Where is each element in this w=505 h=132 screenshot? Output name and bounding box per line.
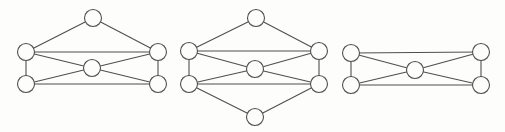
graph-2-edge-bottom-lower-left [189,84,255,117]
graph-1-vertex-lower-left [18,76,35,93]
graph-3-vertex-upper-left [343,45,360,62]
graph-3-vertex-lower-right [473,77,490,94]
graph-2-vertex-top [248,10,265,27]
graph-3-vertex-upper-right [473,44,490,61]
graph-2-edge-bottom-lower-right [255,84,319,117]
graph-3-edge-center-upper-right [415,52,481,70]
graph-3-edge-upper-left-upper-right [351,52,481,53]
graph-1-edge-center-upper-left [26,52,92,68]
graph-2 [181,10,328,126]
graph-3-edge-center-lower-right [415,70,481,85]
graph-3-edge-center-upper-left [351,53,415,70]
graph-2-edge-top-upper-right [256,18,319,51]
graph-2-edge-center-lower-right [255,69,319,84]
graph-2-vertex-upper-left [181,43,198,60]
graph-2-vertex-lower-right [311,76,328,93]
graph-3-vertex-center [407,62,424,79]
graph-2-vertex-center [247,61,264,78]
graph-1-vertex-lower-right [150,76,167,93]
graph-1-edge-center-upper-right [92,52,158,68]
graph-2-vertex-upper-right [311,43,328,60]
graph-2-vertex-lower-left [181,76,198,93]
graph-2-edge-center-upper-left [189,51,255,69]
graph-1-vertex-upper-right [150,44,167,61]
three-graphs-figure [0,0,505,132]
graph-2-edge-top-upper-left [189,18,256,51]
graph-2-edge-center-lower-left [189,69,255,84]
graph-1-edge-top-upper-right [93,18,158,52]
graph-1-vertex-center [84,60,101,77]
graph-1-edge-center-lower-left [26,68,92,84]
graph-2-vertex-bottom [247,109,264,126]
graph-1-vertex-upper-left [18,44,35,61]
graph-1 [18,10,167,93]
graph-3-edge-center-lower-left [351,70,415,85]
graph-1-edge-center-lower-right [92,68,158,84]
graph-3 [343,44,490,94]
graphs-canvas [0,0,505,132]
graph-3-vertex-lower-left [343,77,360,94]
graph-1-edge-top-upper-left [26,18,93,52]
graph-1-vertex-top [85,10,102,27]
graph-2-edge-center-upper-right [255,51,319,69]
